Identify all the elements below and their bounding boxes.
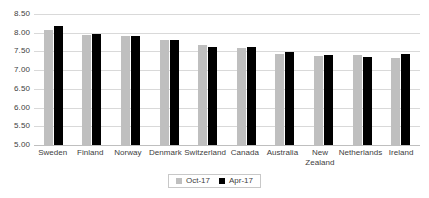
bar-group — [34, 14, 73, 145]
bar[interactable] — [208, 47, 217, 145]
bar[interactable] — [314, 56, 323, 145]
x-axis-category-label: Switzerland — [184, 148, 226, 172]
x-axis-category-label: Australia — [264, 148, 302, 172]
x-axis-labels: SwedenFinlandNorwayDenmarkSwitzerlandCan… — [34, 148, 420, 172]
y-axis-tick-label: 6.00 — [0, 104, 30, 112]
bar[interactable] — [391, 58, 400, 145]
gray-square-icon — [176, 178, 182, 184]
legend-label: Apr-17 — [229, 177, 253, 185]
x-axis-category-label: Finland — [72, 148, 110, 172]
x-axis-category-label: Ireland — [382, 148, 420, 172]
bar[interactable] — [131, 36, 140, 145]
bar-group — [381, 14, 420, 145]
bar[interactable] — [237, 48, 246, 145]
bar[interactable] — [44, 30, 53, 145]
bar[interactable] — [275, 54, 284, 145]
legend: Oct-17 Apr-17 — [0, 174, 429, 188]
bar-group — [343, 14, 382, 145]
bar[interactable] — [247, 47, 256, 145]
plot-area — [34, 14, 420, 145]
y-axis-tick-label: 5.50 — [0, 122, 30, 130]
legend-item-oct-17[interactable]: Oct-17 — [176, 177, 210, 185]
x-axis-category-label: Norway — [109, 148, 147, 172]
y-axis-tick-label: 8.00 — [0, 29, 30, 37]
bar-chart: SwedenFinlandNorwayDenmarkSwitzerlandCan… — [0, 0, 429, 198]
gridline — [34, 145, 420, 146]
y-axis-tick-label: 5.00 — [0, 141, 30, 149]
bar-group — [188, 14, 227, 145]
bar[interactable] — [82, 35, 91, 145]
bar[interactable] — [285, 52, 294, 145]
bar[interactable] — [92, 34, 101, 145]
bar[interactable] — [170, 40, 179, 145]
bar[interactable] — [401, 54, 410, 145]
legend-box: Oct-17 Apr-17 — [168, 174, 261, 188]
bar-group — [111, 14, 150, 145]
x-axis-category-label: Sweden — [34, 148, 72, 172]
bar[interactable] — [54, 26, 63, 145]
bar-group — [304, 14, 343, 145]
x-axis-category-label: Canada — [226, 148, 264, 172]
x-axis-category-label: Denmark — [147, 148, 185, 172]
bar-groups — [34, 14, 420, 145]
y-axis-tick-label: 7.00 — [0, 66, 30, 74]
x-axis-category-label: Netherlands — [339, 148, 383, 172]
y-axis-tick-label: 6.50 — [0, 85, 30, 93]
bar-group — [266, 14, 305, 145]
bar[interactable] — [198, 45, 207, 145]
bar[interactable] — [160, 40, 169, 145]
bar-group — [150, 14, 189, 145]
bar[interactable] — [363, 57, 372, 145]
bar[interactable] — [121, 36, 130, 145]
y-axis-tick-label: 7.50 — [0, 47, 30, 55]
x-axis-category-label: New Zealand — [301, 148, 339, 172]
legend-item-apr-17[interactable]: Apr-17 — [219, 177, 253, 185]
black-square-icon — [219, 178, 225, 184]
legend-label: Oct-17 — [186, 177, 210, 185]
bar-group — [73, 14, 112, 145]
bar[interactable] — [324, 55, 333, 145]
y-axis-tick-label: 8.50 — [0, 10, 30, 18]
bar[interactable] — [353, 55, 362, 145]
bar-group — [227, 14, 266, 145]
